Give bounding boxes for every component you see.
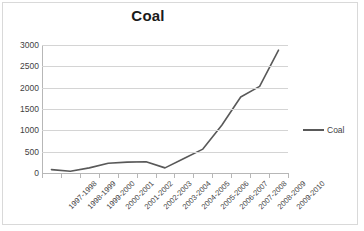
y-axis-tick-label: 3000 — [5, 40, 39, 50]
gridline — [42, 109, 288, 110]
x-axis-tick — [156, 174, 157, 178]
plot-area — [42, 45, 288, 173]
y-axis-tick-label: 1000 — [5, 125, 39, 135]
y-axis-tick-label: 0 — [5, 168, 39, 178]
y-axis-tick-label: 2500 — [5, 61, 39, 71]
gridline — [42, 88, 288, 89]
gridline — [42, 130, 288, 131]
x-axis-tick — [269, 174, 270, 178]
x-axis-tick — [137, 174, 138, 178]
x-axis-tick — [80, 174, 81, 178]
chart-legend: Coal — [303, 125, 344, 135]
chart-container: Coal 050010001500200025003000 1997-19981… — [2, 2, 358, 225]
line-swatch-icon — [303, 129, 324, 131]
y-axis-tick-labels: 050010001500200025003000 — [3, 45, 39, 173]
gridline — [42, 66, 288, 67]
x-axis-tick — [174, 174, 175, 178]
x-axis-tick — [231, 174, 232, 178]
x-axis-tick — [99, 174, 100, 178]
x-axis-tick — [42, 174, 43, 178]
x-axis-tick — [250, 174, 251, 178]
x-axis-tick — [212, 174, 213, 178]
legend-item-label: Coal — [327, 125, 344, 135]
y-axis-tick-label: 1500 — [5, 104, 39, 114]
y-axis-tick-label: 2000 — [5, 83, 39, 93]
x-axis-tick-labels: 1997-19981998-19991999-20002000-20012001… — [3, 179, 333, 231]
chart-title: Coal — [3, 7, 293, 24]
gridline — [42, 45, 288, 46]
y-axis-tick-label: 500 — [5, 147, 39, 157]
x-axis-tick — [288, 174, 289, 178]
x-axis-tick — [61, 174, 62, 178]
x-axis-tick — [118, 174, 119, 178]
gridline — [42, 152, 288, 153]
x-axis-tick — [193, 174, 194, 178]
